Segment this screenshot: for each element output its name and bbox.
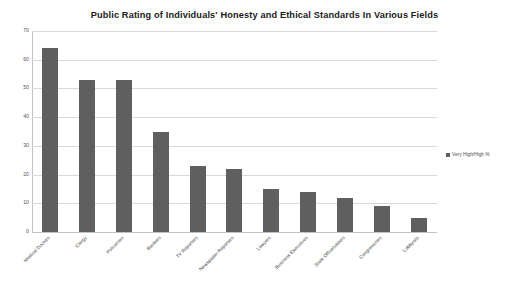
bars-layer [32,31,437,232]
bar-slot [327,31,364,232]
bar-slot [32,31,69,232]
bar-slot [253,31,290,232]
bar[interactable] [226,169,242,232]
legend-square-marker-icon [446,153,450,157]
y-axis-tick-label: 0 [3,229,29,234]
x-label-slot: Medical Doctors [32,234,69,294]
y-axis-tick-label: 70 [3,28,29,33]
bar[interactable] [263,189,279,232]
x-axis-tick-labels: Medical DoctorsClergyPolicemenBankersTV … [32,234,437,294]
bar[interactable] [337,198,353,232]
x-axis-tick-label-text: Policemen [106,236,125,255]
x-axis-tick-label-text: Lobbyists [402,236,420,254]
bar[interactable] [153,132,169,233]
bar-slot [400,31,437,232]
x-label-slot: Congressmen [363,234,400,294]
y-axis-tick-label: 20 [3,172,29,177]
bar-slot [106,31,143,232]
y-axis-tick-label: 30 [3,143,29,148]
gridline [32,232,437,233]
bar-slot [142,31,179,232]
bar-slot [290,31,327,232]
x-label-slot: Policemen [106,234,143,294]
chart-title: Public Rating of Individuals' Honesty an… [0,10,529,20]
bar[interactable] [190,166,206,232]
legend-item-label: Very High/High % [452,153,490,158]
x-axis-tick-label-text: Bankers [146,236,162,252]
bar[interactable] [300,192,316,232]
x-label-slot: Bankers [142,234,179,294]
bar[interactable] [374,206,390,232]
y-axis-tick-label: 10 [3,200,29,205]
chart-legend: Very High/High % [446,153,490,158]
y-axis-tick-labels: 010203040506070 [0,31,29,232]
bar[interactable] [42,48,58,232]
x-axis-tick-label-text: Clergy [75,236,88,249]
x-label-slot: Newspaper Reporters [216,234,253,294]
y-axis-tick-label: 40 [3,114,29,119]
bar-slot [216,31,253,232]
x-label-slot: Lobbyists [400,234,437,294]
bar-chart-figure: Public Rating of Individuals' Honesty an… [0,0,529,297]
bar[interactable] [79,80,95,232]
plot-area [32,31,437,232]
x-axis-tick-label-text: Medical Doctors [24,236,52,264]
bar-slot [179,31,216,232]
bar-slot [69,31,106,232]
bar[interactable] [411,218,427,232]
x-axis-tick-label-text: TV Reporters [175,236,199,260]
x-label-slot: State Officeholders [327,234,364,294]
bar[interactable] [116,80,132,232]
x-label-slot: Clergy [69,234,106,294]
y-axis-tick-label: 60 [3,57,29,62]
bar-slot [363,31,400,232]
y-axis-tick-label: 50 [3,85,29,90]
x-axis-tick-label-text: Lawyers [257,236,273,252]
